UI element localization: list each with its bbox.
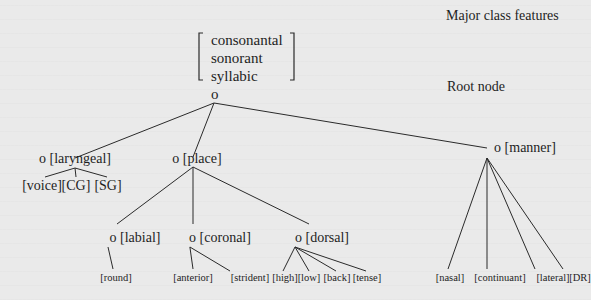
- feature-syllabic: syllabic: [211, 68, 258, 84]
- node-coronal: o [coronal]: [189, 230, 251, 245]
- feature-sg: [SG]: [94, 178, 121, 193]
- tree-edge: [214, 103, 487, 148]
- feature-nasal: [nasal]: [436, 272, 465, 283]
- feature-continuant: [continuant]: [474, 272, 525, 283]
- feature-high: [high]: [272, 272, 298, 283]
- feature-sonorant: sonorant: [211, 50, 263, 66]
- feature-tense: [tense]: [353, 272, 382, 283]
- tree-edge: [487, 158, 535, 269]
- tree-edge: [193, 103, 214, 157]
- feature-dr: [DR]: [569, 272, 591, 283]
- node-laryngeal: o [laryngeal]: [39, 151, 111, 166]
- node-manner: o [manner]: [494, 140, 556, 155]
- tree-edge: [108, 247, 113, 269]
- feature-geometry-tree: consonantal sonorant syllabic o Major cl…: [0, 0, 591, 300]
- feature-anterior: [anterior]: [173, 272, 213, 283]
- tree-edges: [45, 103, 563, 271]
- feature-lateral: [lateral]: [536, 272, 569, 283]
- feature-cg: [CG]: [62, 178, 91, 193]
- node-dorsal: o [dorsal]: [295, 230, 349, 245]
- tree-edge: [448, 158, 487, 269]
- feature-voice: [voice]: [22, 178, 62, 193]
- feature-low: [low]: [298, 272, 321, 283]
- root-node-symbol: o: [211, 86, 219, 102]
- feature-back: [back]: [324, 272, 351, 283]
- feature-consonantal: consonantal: [211, 32, 283, 48]
- node-labial: o [labial]: [110, 230, 161, 245]
- label-root-node: Root node: [447, 79, 505, 94]
- tree-edge: [75, 168, 76, 177]
- tree-edge: [75, 168, 107, 177]
- tree-edge: [190, 247, 193, 269]
- tree-edge: [75, 103, 214, 158]
- feature-strident: [strident]: [231, 272, 270, 283]
- tree-edge: [45, 168, 75, 177]
- tree-edge: [190, 247, 230, 271]
- label-major-class-features: Major class features: [446, 8, 559, 23]
- node-place: o [place]: [172, 151, 221, 166]
- tree-edge: [487, 158, 563, 269]
- feature-round: [round]: [100, 272, 132, 283]
- tree-edge: [117, 167, 193, 224]
- tree-nodes: o [laryngeal][voice][CG][SG]o [place]o […: [22, 140, 591, 283]
- tree-edge: [193, 167, 309, 224]
- tree-edge: [283, 247, 295, 271]
